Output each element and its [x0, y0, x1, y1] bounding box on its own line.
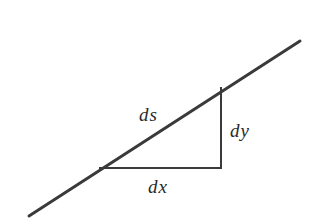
label-dy: dy [230, 120, 250, 141]
label-ds: ds [139, 104, 158, 125]
label-dx: dx [148, 176, 168, 197]
differential-triangle-diagram: ds dy dx [0, 0, 322, 220]
